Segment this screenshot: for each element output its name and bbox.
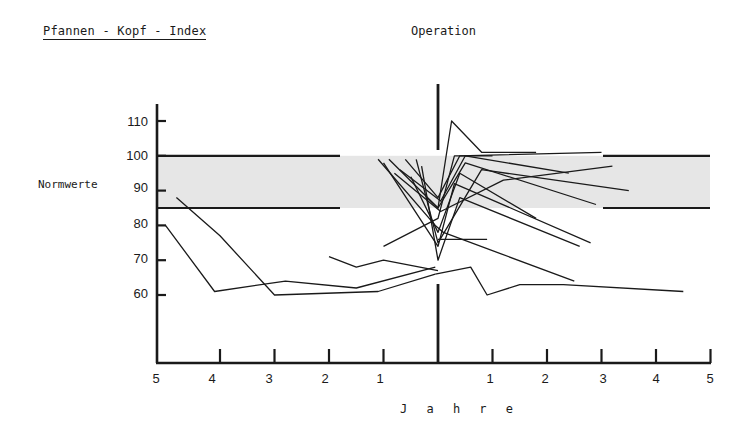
normal-range-band bbox=[157, 156, 710, 208]
series-line-case-a bbox=[166, 225, 436, 291]
plot-area bbox=[0, 0, 747, 440]
series-line-case-d bbox=[329, 257, 438, 271]
series-line-case-c bbox=[435, 267, 683, 295]
series-line-case-b bbox=[176, 198, 435, 295]
band-fill bbox=[157, 156, 710, 208]
